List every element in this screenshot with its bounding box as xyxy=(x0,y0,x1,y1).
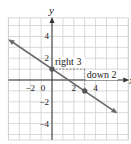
data-point xyxy=(82,88,87,93)
y-tick-label: −4 xyxy=(39,119,49,129)
x-tick-label: 4 xyxy=(93,83,98,93)
x-tick-label: −2 xyxy=(25,83,35,93)
y-tick-label: 4 xyxy=(45,31,50,41)
x-axis-label: x xyxy=(128,74,131,86)
y-tick-label: −2 xyxy=(39,97,49,107)
coordinate-plane: xy−202442−2−4right 3down 2 xyxy=(0,0,131,144)
x-tick-label: 0 xyxy=(41,83,46,93)
data-point xyxy=(49,67,54,72)
y-axis-label: y xyxy=(48,4,54,16)
y-tick-label: 2 xyxy=(45,53,50,63)
right-3-label: right 3 xyxy=(55,56,81,67)
down-2-label: down 2 xyxy=(87,69,117,80)
